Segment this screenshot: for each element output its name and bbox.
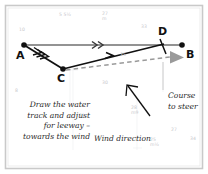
figure-canvas [0, 0, 208, 174]
point-B-dot [179, 42, 185, 48]
point-C-dot [60, 66, 66, 72]
course-to-steer-figure: A B C D Draw the water track and adjust … [0, 0, 208, 174]
figure-frame [6, 6, 203, 169]
point-A-dot [21, 42, 27, 48]
